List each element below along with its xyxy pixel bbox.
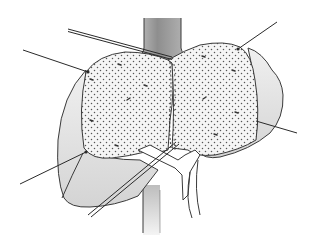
stippled-area-left [81, 52, 173, 158]
liver-diagram [0, 0, 319, 235]
leader-line-1 [23, 50, 88, 72]
leader-line-3 [238, 22, 277, 49]
ivc-lower [143, 180, 160, 235]
diagram-canvas [0, 0, 319, 235]
stippled-area-right [168, 43, 258, 156]
